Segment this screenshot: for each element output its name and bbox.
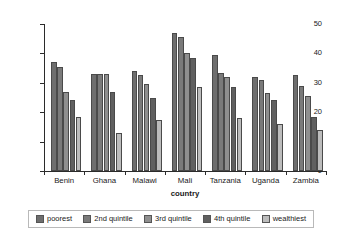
bar-tanzania-poorest	[212, 55, 218, 171]
legend-swatch-icon	[203, 215, 211, 223]
chart-figure: % underweight prevalence 01020304050 Ben…	[0, 0, 340, 238]
x-axis-group-label-ghana: Ghana	[84, 177, 124, 185]
x-axis-group-label-mali: Mali	[165, 177, 205, 185]
bar-zambia-wealthiest	[317, 130, 323, 171]
bar-mali-4th-quintile	[190, 58, 196, 171]
bar-mali-2nd-quintile	[178, 37, 184, 171]
bar-malawi-3rd-quintile	[144, 84, 150, 171]
legend-label: poorest	[47, 215, 72, 223]
x-axis-tick	[205, 171, 206, 175]
x-axis-tick	[326, 171, 327, 175]
bar-mali-wealthiest	[197, 87, 203, 171]
bar-zambia-2nd-quintile	[299, 86, 305, 171]
bar-tanzania-4th-quintile	[231, 87, 237, 171]
x-axis-tick	[44, 171, 45, 175]
y-axis-tick	[40, 53, 44, 54]
legend-item-2nd-quintile[interactable]: 2nd quintile	[83, 215, 132, 223]
x-axis-group-label-uganda: Uganda	[245, 177, 285, 185]
bar-uganda-2nd-quintile	[259, 80, 265, 171]
x-axis-tick	[286, 171, 287, 175]
bar-group	[172, 24, 202, 171]
bar-zambia-3rd-quintile	[305, 96, 311, 171]
bar-uganda-4th-quintile	[271, 100, 277, 171]
plot-area: 01020304050 BeninGhanaMalawiMaliTanzania…	[44, 24, 326, 172]
y-axis-tick	[40, 112, 44, 113]
legend-swatch-icon	[36, 215, 44, 223]
bar-uganda-3rd-quintile	[265, 93, 271, 171]
legend-item-4th-quintile[interactable]: 4th quintile	[203, 215, 250, 223]
x-axis-tick	[84, 171, 85, 175]
legend-label: wealthiest	[273, 215, 306, 223]
bar-zambia-poorest	[293, 75, 299, 171]
bar-uganda-poorest	[252, 77, 258, 171]
bar-benin-3rd-quintile	[63, 92, 69, 171]
y-axis-tick	[40, 142, 44, 143]
legend-swatch-icon	[83, 215, 91, 223]
bar-tanzania-3rd-quintile	[224, 77, 230, 171]
bar-benin-poorest	[51, 62, 57, 171]
x-axis-group-label-benin: Benin	[44, 177, 84, 185]
legend-label: 4th quintile	[214, 215, 250, 223]
legend-label: 3rd quintile	[155, 215, 192, 223]
bar-mali-poorest	[172, 33, 178, 171]
x-axis-group-label-zambia: Zambia	[286, 177, 326, 185]
bar-uganda-wealthiest	[277, 124, 283, 171]
y-axis-tick	[40, 24, 44, 25]
bar-ghana-wealthiest	[116, 133, 122, 171]
bar-benin-2nd-quintile	[57, 67, 63, 171]
bar-malawi-2nd-quintile	[138, 75, 144, 171]
bar-ghana-4th-quintile	[110, 92, 116, 171]
y-axis-tick	[40, 83, 44, 84]
bar-benin-4th-quintile	[70, 100, 76, 171]
legend-label: 2nd quintile	[94, 215, 132, 223]
y-axis-line	[44, 24, 45, 172]
legend-item-wealthiest[interactable]: wealthiest	[262, 215, 306, 223]
bar-ghana-poorest	[91, 74, 97, 171]
bar-group	[91, 24, 121, 171]
bar-group	[51, 24, 81, 171]
bar-mali-3rd-quintile	[184, 53, 190, 171]
legend-swatch-icon	[144, 215, 152, 223]
bar-tanzania-wealthiest	[237, 118, 243, 171]
chart-legend: poorest2nd quintile3rd quintile4th quint…	[28, 210, 314, 228]
x-axis-title: country	[44, 189, 326, 198]
x-axis-tick	[125, 171, 126, 175]
legend-swatch-icon	[262, 215, 270, 223]
bar-group	[252, 24, 282, 171]
bar-zambia-4th-quintile	[311, 117, 317, 171]
bar-group	[293, 24, 323, 171]
bar-ghana-2nd-quintile	[97, 74, 103, 171]
legend-item-poorest[interactable]: poorest	[36, 215, 72, 223]
bar-malawi-4th-quintile	[150, 98, 156, 172]
legend-item-3rd-quintile[interactable]: 3rd quintile	[144, 215, 192, 223]
x-axis-group-label-malawi: Malawi	[125, 177, 165, 185]
bar-tanzania-2nd-quintile	[218, 73, 224, 171]
bar-malawi-poorest	[132, 71, 138, 171]
bar-malawi-wealthiest	[156, 120, 162, 171]
x-axis-line	[44, 171, 326, 172]
bar-benin-wealthiest	[76, 117, 82, 171]
bar-group	[132, 24, 162, 171]
x-axis-tick	[245, 171, 246, 175]
x-axis-tick	[165, 171, 166, 175]
bar-group	[212, 24, 242, 171]
bar-ghana-3rd-quintile	[104, 74, 110, 171]
x-axis-group-label-tanzania: Tanzania	[205, 177, 245, 185]
